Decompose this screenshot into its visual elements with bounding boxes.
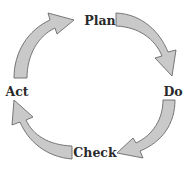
label-check: Check: [73, 145, 117, 160]
label-do: Do: [163, 84, 182, 99]
label-plan: Plan: [84, 13, 115, 28]
pdca-cycle-diagram: Plan Do Check Act: [0, 0, 189, 173]
arrow-check-to-act: [12, 100, 72, 159]
arrow-do-to-check: [117, 100, 175, 158]
label-act: Act: [4, 84, 28, 99]
arrow-plan-to-do: [116, 13, 176, 76]
arrow-act-to-plan: [14, 13, 74, 78]
